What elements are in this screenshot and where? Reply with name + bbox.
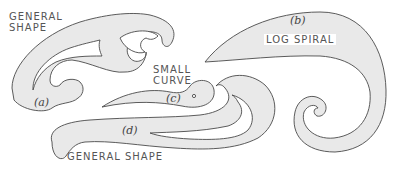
label-c-letter: (c) <box>166 92 181 105</box>
label-a-letter: (a) <box>34 96 49 109</box>
label-d-name: GENERAL SHAPE <box>67 151 163 162</box>
label-d-letter: (d) <box>122 124 138 137</box>
label-b-name: LOG SPIRAL <box>264 34 336 45</box>
label-b-letter: (b) <box>290 14 306 27</box>
label-a-name: GENERAL SHAPE <box>9 11 63 33</box>
french-curves-figure: GENERAL SHAPE (a) (b) LOG SPIRAL SMALL C… <box>0 0 397 174</box>
small-curve-hole <box>192 94 195 97</box>
label-c-name: SMALL CURVE <box>153 64 192 86</box>
